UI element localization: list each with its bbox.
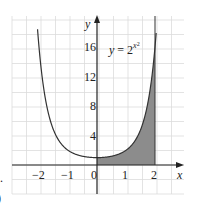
function-label: y = 2x2 xyxy=(108,41,140,57)
y-axis-label: y xyxy=(84,17,91,31)
x-tick-label: −1 xyxy=(61,168,74,182)
y-tick-label: 12 xyxy=(84,70,96,84)
chart: −2−1012 481216 x y y = 2x2 . ) xyxy=(0,0,197,215)
shaded-area xyxy=(97,47,155,165)
y-tick-label: 8 xyxy=(90,99,96,113)
margin-dot: . xyxy=(0,171,3,185)
x-tick-label: 0 xyxy=(91,168,97,182)
x-tick-label: 2 xyxy=(151,168,157,182)
x-tick-label: 1 xyxy=(122,168,128,182)
x-tick-label: −2 xyxy=(32,168,45,182)
x-axis-label: x xyxy=(176,168,183,182)
margin-paren: ) xyxy=(0,191,1,205)
y-tick-label: 16 xyxy=(84,40,96,54)
y-tick-label: 4 xyxy=(90,129,96,143)
